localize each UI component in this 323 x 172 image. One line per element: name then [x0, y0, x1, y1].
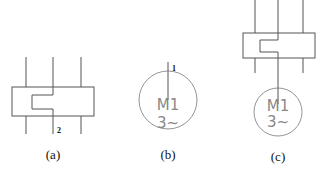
c-heater-element [260, 40, 278, 104]
c-caption: (c) [271, 149, 285, 164]
panel-c-relay-motor: M1 3~ (c) [243, 0, 315, 164]
diagram-canvas: 2 (a) 1 M1 3~ (b) M1 3~ (c) [0, 0, 323, 172]
b-terminal-label: 1 [172, 64, 176, 73]
a-heater-element [32, 95, 53, 134]
c-relay-box [243, 33, 315, 58]
a-terminal-label: 2 [57, 126, 61, 135]
b-motor-phase: 3~ [157, 114, 179, 132]
b-motor-name: M1 [157, 96, 180, 114]
panel-b-motor: 1 M1 3~ (b) [139, 62, 197, 162]
panel-a-overload-relay: 2 (a) [12, 57, 94, 162]
a-caption: (a) [46, 147, 60, 162]
c-motor-phase: 3~ [267, 113, 289, 131]
b-caption: (b) [160, 147, 175, 162]
